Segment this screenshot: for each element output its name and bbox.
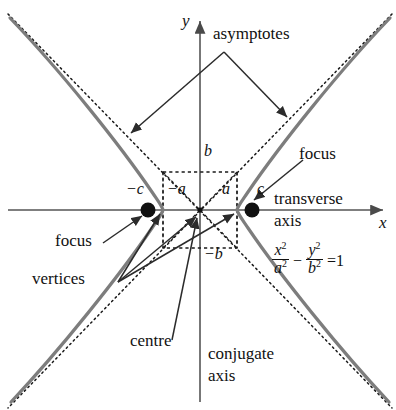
label-focus-left: focus [55,232,92,250]
axis-label-x: x [379,214,387,232]
equation-x-denominator-exp: 2 [282,257,287,268]
equation-x-denominator-var: a [274,259,282,276]
label-transverse-axis-line1: transverse [274,190,343,208]
equation-y-denominator-exp: 2 [316,257,321,268]
equation-x-numerator-var: x [274,241,281,258]
label-conjugate-axis-line1: conjugate [208,345,274,363]
label-centre: centre [130,332,172,350]
point-label-a: a [222,181,230,198]
hyperbola-equation: x2 a2 − y2 b2 =1 [272,242,344,277]
point-label-c: c [257,181,264,198]
centre-point [197,207,202,212]
axis-label-y: y [182,12,190,30]
equation-y-fraction: y2 b2 [306,242,323,277]
point-label-neg-c: −c [126,181,144,198]
point-label-neg-a: −a [167,181,186,198]
label-focus-right: focus [299,145,336,163]
equation-y-numerator-exp: 2 [316,240,321,251]
label-vertices: vertices [32,270,85,288]
equation-equals-sign: = [327,252,336,269]
equation-minus-sign: − [293,252,302,269]
equation-rhs: 1 [336,252,344,269]
label-transverse-axis-line2: axis [274,212,301,230]
equation-y-numerator-var: y [308,241,315,258]
label-conjugate-axis-line2: axis [208,367,235,385]
hyperbola-figure: y x asymptotes focus focus vertices cent… [0,0,396,410]
equation-x-fraction: x2 a2 [272,242,289,277]
label-asymptotes: asymptotes [213,25,290,43]
equation-y-denominator-var: b [308,259,316,276]
equation-x-numerator-exp: 2 [282,240,287,251]
point-label-b: b [204,143,212,160]
point-label-neg-b: −b [204,246,223,263]
